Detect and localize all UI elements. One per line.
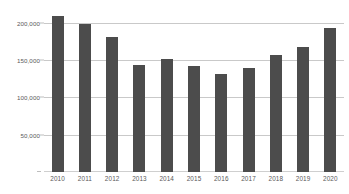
bar-slot (44, 14, 71, 172)
bar-chart: 50,000100,000150,000200,000 201020112012… (0, 0, 349, 194)
bar[interactable] (52, 16, 64, 172)
bar-slot (262, 14, 289, 172)
y-axis-tick-label: 50,000 (20, 131, 40, 138)
bar-slot (71, 14, 98, 172)
x-axis-tick-label: 2017 (241, 175, 256, 182)
plot-area (44, 14, 344, 172)
bar[interactable] (106, 37, 118, 172)
x-axis-tick-label: 2011 (78, 175, 92, 182)
bar-slot (126, 14, 153, 172)
bar[interactable] (243, 68, 255, 172)
origin-tick-mark (37, 171, 41, 172)
bar[interactable] (79, 24, 91, 172)
x-axis-tick-label: 2019 (296, 175, 311, 182)
bar[interactable] (270, 55, 282, 172)
bar-slot (289, 14, 316, 172)
bar[interactable] (161, 59, 173, 172)
x-axis-tick-label: 2012 (105, 175, 120, 182)
x-axis-tick-label: 2016 (214, 175, 229, 182)
bar[interactable] (133, 65, 145, 172)
bar[interactable] (297, 47, 309, 172)
y-axis-tick-label: 150,000 (17, 57, 40, 64)
bar[interactable] (215, 74, 227, 172)
bar-slot (99, 14, 126, 172)
bar-slot (317, 14, 344, 172)
bar-series (44, 14, 344, 172)
y-axis-tick-mark (40, 22, 44, 23)
x-axis-tick-label: 2020 (323, 175, 338, 182)
x-axis-tick-label: 2018 (269, 175, 284, 182)
bar[interactable] (188, 66, 200, 172)
y-axis-tick-label: 100,000 (17, 94, 40, 101)
x-axis-tick-label: 2014 (159, 175, 174, 182)
bar-slot (180, 14, 207, 172)
y-axis-tick-mark (40, 60, 44, 61)
x-axis-tick-label: 2015 (187, 175, 202, 182)
bar-slot (153, 14, 180, 172)
y-axis-tick-mark (40, 134, 44, 135)
bar-slot (235, 14, 262, 172)
x-axis-tick-label: 2013 (132, 175, 147, 182)
bar[interactable] (324, 28, 336, 172)
x-axis-tick-label: 2010 (50, 175, 65, 182)
bar-slot (208, 14, 235, 172)
y-axis-tick-mark (40, 97, 44, 98)
x-axis: 2010201120122013201420152016201720182019… (44, 175, 344, 191)
y-axis-tick-label: 200,000 (17, 19, 40, 26)
